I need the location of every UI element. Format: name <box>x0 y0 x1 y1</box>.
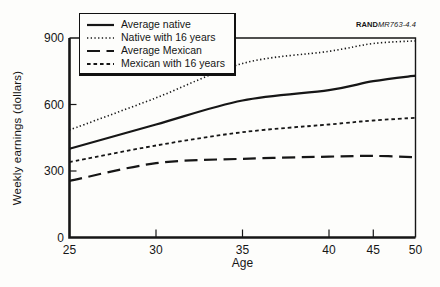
legend-label: Average Mexican <box>121 45 202 56</box>
dotted-line-swatch-icon <box>87 34 114 42</box>
x-axis-title: Age <box>232 256 253 270</box>
legend-label: Average native <box>121 19 191 30</box>
earnings-by-age-chart: Average nativeNative with 16 yearsAverag… <box>0 0 440 287</box>
figure-source-label: RANDMR763-4.4 <box>356 20 416 29</box>
x-tick-label: 35 <box>236 244 249 256</box>
x-tick-label: 30 <box>149 244 162 256</box>
source-label-figure-number: MR763-4.4 <box>378 20 416 29</box>
series-line-average-native <box>70 76 416 149</box>
y-tick-label: 600 <box>44 99 64 111</box>
series-line-average-mexican <box>70 156 416 181</box>
y-axis-title: Weekly earnings (dollars) <box>11 71 23 206</box>
legend-label: Native with 16 years <box>121 32 216 43</box>
legend-item: Average native <box>87 18 225 31</box>
x-tick-label: 25 <box>63 244 76 256</box>
long-dash-line-swatch-icon <box>87 47 114 55</box>
legend-label: Mexican with 16 years <box>121 58 225 69</box>
y-tick-label: 900 <box>44 32 64 44</box>
x-tick-label: 50 <box>409 244 422 256</box>
solid-line-swatch-icon <box>87 21 114 29</box>
chart-legend: Average nativeNative with 16 yearsAverag… <box>79 13 236 76</box>
source-label-rand: RAND <box>356 20 378 29</box>
y-tick-label: 300 <box>44 165 64 177</box>
legend-item: Average Mexican <box>87 44 225 57</box>
legend-item: Native with 16 years <box>87 31 225 44</box>
short-dash-line-swatch-icon <box>87 60 114 68</box>
x-tick-label: 40 <box>322 244 335 256</box>
x-tick-label: 45 <box>367 244 380 256</box>
legend-item: Mexican with 16 years <box>87 57 225 70</box>
